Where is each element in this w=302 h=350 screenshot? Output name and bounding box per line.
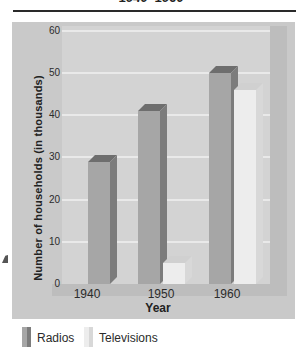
y-axis-title: Number of households (in thousands) [32, 48, 44, 308]
x-tick-label-1950: 1950 [136, 287, 186, 301]
chart-panel: 0102030405060 Number of households (in t… [12, 22, 295, 319]
legend: Radios Televisions [0, 325, 302, 350]
x-tick-label-1960: 1960 [202, 287, 252, 301]
gridline-60 [62, 30, 270, 32]
horizontal-rule [13, 10, 296, 12]
bar-televisions-1960 [234, 90, 256, 284]
bar-radios-1960 [209, 73, 231, 284]
legend-swatch-radios [22, 327, 31, 347]
chart-title: 1940–1960 [0, 0, 302, 5]
gridline-50 [62, 72, 270, 74]
legend-swatch-televisions [84, 327, 93, 347]
bar-radios-1940 [88, 162, 110, 284]
right-wall-3d [270, 26, 287, 296]
chart-title-clipped-region: 1940–1960 [0, 0, 302, 5]
legend-label-radios: Radios [37, 331, 74, 345]
bar-radios-1950 [138, 111, 160, 284]
cropped-glyph-artifact [2, 255, 8, 263]
x-axis-title: Year [128, 301, 188, 315]
y-tick-label-60: 60 [22, 25, 60, 36]
chart-page: 1940–1960 0102030405060 Number of househ… [0, 0, 302, 350]
legend-label-televisions: Televisions [99, 331, 158, 345]
bar-televisions-1950 [163, 263, 185, 284]
x-tick-label-1940: 1940 [62, 287, 112, 301]
